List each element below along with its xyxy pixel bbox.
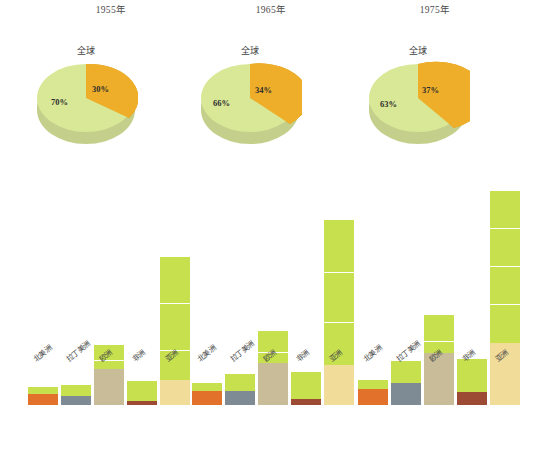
bar-label-latin-america: 拉丁美洲 [393, 338, 422, 364]
bar-label-holder: 非洲 [293, 351, 323, 411]
pie-graphic-1965: 66% 34% [198, 58, 302, 150]
bar-label-holder: 亚洲 [492, 351, 522, 411]
bar-label-holder: 拉丁美洲 [227, 351, 257, 411]
bar-label-latin-america: 拉丁美洲 [63, 338, 92, 364]
bar-label-holder: 拉丁美洲 [393, 351, 423, 411]
pie-chart-1975: 全球 63% 37% [348, 44, 488, 162]
bar-segment-green [324, 220, 354, 273]
pie-title-1965: 全球 [180, 44, 320, 57]
bar-label-latin-america: 拉丁美洲 [227, 338, 256, 364]
pie-label-green-1975: 63% [380, 99, 397, 109]
bar-group-1955: 北美洲 拉丁美洲 欧洲 [22, 185, 182, 405]
year-label-1955: 1955年 [72, 2, 150, 16]
bar-label-holder: 非洲 [459, 351, 489, 411]
bar-chart-area: 北美洲 拉丁美洲 欧洲 [0, 185, 533, 475]
bar-label-holder: 拉丁美洲 [63, 351, 93, 411]
bar-segment-green [424, 315, 454, 342]
bar-label-north-america: 北美洲 [30, 342, 53, 364]
bar-label-africa: 非洲 [459, 346, 477, 363]
pie-chart-1965: 全球 66% 34% [180, 44, 320, 162]
pie-graphic-1975: 63% 37% [366, 58, 470, 150]
bar-label-holder: 欧洲 [426, 351, 456, 411]
bar-segment-green [490, 267, 520, 305]
bar-segment-green [490, 191, 520, 229]
pie-label-green-1955: 70% [51, 97, 68, 107]
bar-group-1975: 北美洲 拉丁美洲 欧洲 [352, 185, 522, 405]
pie-label-amber-1975: 37% [422, 85, 439, 95]
bar-group-1965: 北美洲 拉丁美洲 欧洲 [186, 185, 346, 405]
bar-label-holder: 非洲 [129, 351, 159, 411]
pie-graphic-1955: 70% 30% [34, 58, 138, 150]
population-figure: 1955年 1965年 1975年 全球 70% 30% 全球 [0, 0, 533, 475]
bar-segment-green [490, 305, 520, 343]
bar-segment-green [490, 229, 520, 267]
bar-segment-green [324, 273, 354, 323]
pie-title-1975: 全球 [348, 44, 488, 57]
bar-label-holder: 北美洲 [194, 351, 224, 411]
year-label-1965: 1965年 [232, 2, 310, 16]
year-header-row: 1955年 1965年 1975年 [0, 0, 533, 22]
bar-label-holder: 北美洲 [360, 351, 390, 411]
pie-label-green-1965: 66% [213, 98, 230, 108]
bar-label-north-america: 北美洲 [360, 342, 383, 364]
pie-title-1955: 全球 [16, 44, 156, 57]
bar-label-holder: 欧洲 [260, 351, 290, 411]
year-label-1975: 1975年 [396, 2, 474, 16]
pie-label-amber-1955: 30% [92, 84, 109, 94]
pie-chart-1955: 全球 70% 30% [16, 44, 156, 162]
bar-label-africa: 非洲 [293, 346, 311, 363]
bar-label-holder: 欧洲 [96, 351, 126, 411]
bar-label-north-america: 北美洲 [194, 342, 217, 364]
bar-label-africa: 非洲 [129, 346, 147, 363]
pie-label-amber-1965: 34% [255, 85, 272, 95]
pie-svg-1955 [34, 58, 138, 150]
bar-label-holder: 北美洲 [30, 351, 60, 411]
